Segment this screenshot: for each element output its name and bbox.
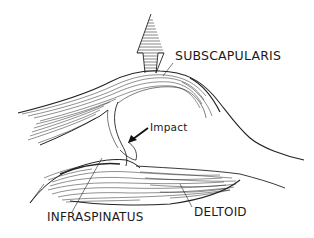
leader-lines (30, 63, 192, 212)
infraspinatus-muscle (30, 159, 230, 203)
subscapularis-leader-line (163, 63, 173, 76)
muscle-illustration (0, 0, 314, 238)
impact-label: Impact (150, 122, 188, 133)
diagram-canvas: SUBSCAPULARIS Impact INFRASPINATUS DELTO… (0, 0, 314, 238)
infraspinatus-edge-line (30, 184, 44, 203)
infraspinatus-label: INFRASPINATUS (47, 211, 143, 223)
humeral-head-outline (107, 102, 136, 166)
upward-force-arrow-icon (130, 14, 170, 73)
impact-arrow-icon (128, 128, 148, 143)
subscapularis-label: SUBSCAPULARIS (175, 50, 281, 63)
subscapularis-muscle (18, 71, 304, 160)
deltoid-label: DELTOID (194, 206, 247, 218)
